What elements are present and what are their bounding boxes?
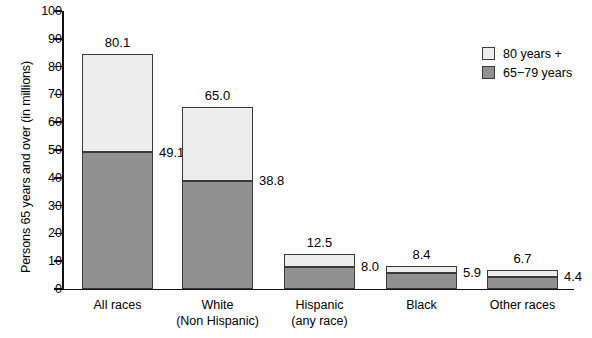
bar-total-label: 6.7 xyxy=(513,251,531,266)
chart-legend: 80 years +65−79 years xyxy=(482,44,572,82)
bar-segment-80-plus xyxy=(386,266,457,273)
bar-segment-label-65-79: 4.4 xyxy=(564,269,582,284)
category-label-line: (any race) xyxy=(291,313,347,329)
legend-swatch-icon xyxy=(482,66,495,79)
y-axis-tick-label: 20 xyxy=(18,226,62,240)
y-axis-tick-label: 40 xyxy=(18,171,62,185)
category-label-line: All races xyxy=(94,297,142,313)
x-axis-category-label: Other races xyxy=(490,297,555,313)
bar-4 xyxy=(487,270,558,289)
bar-total-label: 65.0 xyxy=(205,88,230,103)
y-axis-tick-label: 70 xyxy=(18,87,62,101)
bar-segment-65-79 xyxy=(182,181,253,289)
bar-segment-label-65-79: 8.0 xyxy=(361,259,379,274)
y-axis-tick-label: 30 xyxy=(18,199,62,213)
bar-segment-65-79 xyxy=(487,277,558,289)
bar-segment-65-79 xyxy=(284,267,355,289)
bar-0 xyxy=(82,54,153,289)
x-axis-category-label: White(Non Hispanic) xyxy=(176,297,259,329)
y-axis-tick-label: 80 xyxy=(18,60,62,74)
x-axis-category-label: Hispanic(any race) xyxy=(291,297,347,329)
y-axis-tick-label: 100 xyxy=(18,4,62,18)
category-label-line: White xyxy=(176,297,259,313)
legend-item: 80 years + xyxy=(482,44,572,63)
bar-3 xyxy=(386,266,457,289)
bar-total-label: 8.4 xyxy=(412,247,430,262)
bar-segment-80-plus xyxy=(182,107,253,181)
bar-segment-80-plus xyxy=(284,254,355,267)
bar-segment-label-65-79: 5.9 xyxy=(463,265,481,280)
category-label-line: Hispanic xyxy=(291,297,347,313)
stacked-bar-chart: Persons 65 years and over (in millions) … xyxy=(0,0,592,338)
legend-label: 65−79 years xyxy=(503,66,572,80)
bar-1 xyxy=(182,107,253,289)
bar-segment-label-65-79: 38.8 xyxy=(259,173,284,188)
bar-total-label: 12.5 xyxy=(307,235,332,250)
x-axis-category-label: All races xyxy=(94,297,142,313)
bar-total-label: 80.1 xyxy=(105,35,130,50)
bar-segment-label-65-79: 49.1 xyxy=(159,145,184,160)
legend-swatch-icon xyxy=(482,47,495,60)
category-label-line: Black xyxy=(406,297,437,313)
y-axis-tick-label: 90 xyxy=(18,32,62,46)
legend-item: 65−79 years xyxy=(482,63,572,82)
y-axis-tick-label: 60 xyxy=(18,115,62,129)
legend-label: 80 years + xyxy=(503,47,562,61)
bar-segment-65-79 xyxy=(386,273,457,289)
y-axis-line xyxy=(62,11,64,290)
bar-segment-65-79 xyxy=(82,152,153,288)
x-axis-category-label: Black xyxy=(406,297,437,313)
bar-2 xyxy=(284,254,355,289)
y-axis-tick-label: 0 xyxy=(18,282,62,296)
category-label-line: (Non Hispanic) xyxy=(176,313,259,329)
y-axis-tick-label: 50 xyxy=(18,143,62,157)
category-label-line: Other races xyxy=(490,297,555,313)
y-axis-tick-label: 10 xyxy=(18,254,62,268)
bar-segment-80-plus xyxy=(82,54,153,152)
